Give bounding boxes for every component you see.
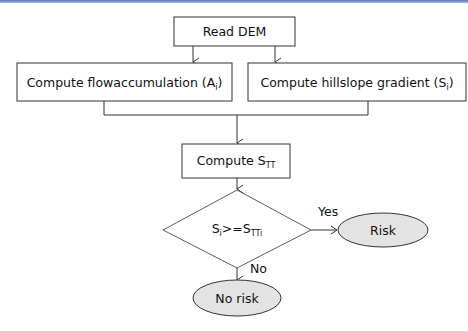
node-flowaccumulation: Compute flowaccumulation (Ai): [17, 63, 232, 101]
flowchart: Read DEM Compute flowaccumulation (Ai) C…: [0, 0, 468, 331]
node-risk-label: Risk: [370, 223, 397, 238]
edge-join-connector: [104, 101, 368, 115]
node-decision: Si>=STTi: [163, 190, 311, 268]
node-no-risk: No risk: [193, 280, 281, 316]
node-read-dem-label: Read DEM: [203, 24, 267, 39]
node-stt-label: Compute S: [197, 153, 266, 168]
node-risk: Risk: [338, 213, 428, 247]
svg-text:Compute flowaccumulation (Ai): Compute flowaccumulation (Ai): [27, 75, 223, 92]
node-compute-stt: Compute STT: [182, 144, 290, 178]
svg-text:Compute hillslope gradient (Si: Compute hillslope gradient (Si): [260, 75, 453, 92]
node-no-risk-label: No risk: [215, 291, 259, 306]
node-hillslope-gradient: Compute hillslope gradient (Si): [248, 63, 466, 101]
svg-text:Compute STT: Compute STT: [197, 153, 276, 170]
node-flowacc-label: Compute flowaccumulation (A: [27, 75, 216, 90]
edge-yes-label: Yes: [317, 204, 338, 219]
node-gradient-label: Compute hillslope gradient (S: [260, 75, 446, 90]
edge-no-label: No: [250, 261, 267, 276]
node-read-dem: Read DEM: [174, 17, 295, 46]
